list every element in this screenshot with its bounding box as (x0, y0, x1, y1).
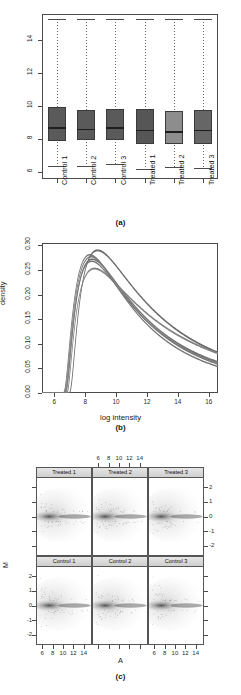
ma-panel-plot-area (149, 477, 203, 555)
ma-data-point (157, 530, 158, 531)
ma-data-point (183, 521, 184, 522)
boxplot-y-tick-label: 10 (26, 98, 33, 112)
ma-data-point (81, 610, 82, 611)
ma-data-point (122, 611, 123, 612)
ma-data-point (198, 601, 199, 602)
ma-data-point (119, 523, 120, 524)
ma-data-point (46, 625, 47, 626)
density-y-axis-title: density (0, 282, 7, 305)
ma-data-point (102, 596, 103, 597)
density-curve (42, 261, 218, 393)
ma-panel-plot-area (93, 566, 147, 644)
ma-data-point (50, 600, 51, 601)
ma-data-point (57, 512, 58, 513)
ma-data-point (45, 594, 46, 595)
ma-data-point (118, 507, 119, 508)
ma-data-point (41, 590, 42, 591)
ma-data-point (62, 610, 63, 611)
ma-data-point (40, 494, 41, 495)
ma-data-point (174, 600, 175, 601)
boxplot-whisker (57, 19, 58, 166)
ma-data-point (45, 588, 46, 589)
ma-data-point (118, 610, 119, 611)
panel-tag-b: (b) (0, 423, 241, 432)
ma-data-point (53, 511, 54, 512)
boxplot-y-tick (38, 106, 42, 107)
ma-data-point (105, 528, 106, 529)
boxplot-whisker-cap (77, 19, 95, 20)
ma-data-point (98, 575, 99, 576)
ma-bottom-x-tick (84, 645, 85, 649)
ma-data-point (108, 509, 109, 510)
ma-data-point (99, 598, 100, 599)
ma-data-point (163, 600, 164, 601)
panel-b-density: 0.000.050.100.150.200.250.30 6810121416 … (0, 235, 241, 440)
ma-data-point (96, 592, 97, 593)
boxplot-box (194, 110, 212, 144)
ma-data-point (49, 596, 50, 597)
ma-data-point (180, 511, 181, 512)
density-x-tick (209, 393, 210, 397)
ma-left-y-tick (32, 620, 36, 621)
ma-data-point (44, 592, 45, 593)
ma-data-point (129, 522, 130, 523)
ma-data-point (160, 511, 161, 512)
density-y-tick-label: 0.05 (24, 356, 31, 378)
ma-data-point (42, 594, 43, 595)
ma-bottom-x-tick (98, 645, 99, 649)
ma-data-point (99, 511, 100, 512)
ma-data-point (53, 612, 54, 613)
ma-data-point (171, 611, 172, 612)
ma-right-y-tick-label: 0 (209, 513, 222, 519)
boxplot-x-tick-label: Control 3 (119, 156, 128, 185)
ma-right-y-tick (204, 576, 208, 577)
ma-point-cloud (93, 566, 147, 645)
ma-data-point (48, 522, 49, 523)
ma-data-point (161, 510, 162, 511)
ma-panel: Control 2 (92, 556, 148, 645)
boxplot-median-line (194, 130, 212, 132)
ma-data-point (87, 610, 88, 611)
ma-data-point (60, 524, 61, 525)
ma-data-point (153, 614, 154, 615)
ma-data-point (133, 522, 134, 523)
ma-data-point (159, 523, 160, 524)
boxplot-y-tick-label: 12 (26, 65, 33, 79)
ma-data-point (160, 594, 161, 595)
ma-data-point (116, 521, 117, 522)
boxplot-whisker (174, 19, 175, 168)
ma-right-y-tick-label: 1 (209, 498, 222, 504)
ma-data-point (73, 511, 74, 512)
boxplot-median-line (48, 127, 66, 129)
ma-data-point (102, 618, 103, 619)
ma-data-point (110, 616, 111, 617)
ma-data-point (108, 521, 109, 522)
ma-data-point (132, 613, 133, 614)
ma-data-point (101, 504, 102, 505)
ma-data-point (132, 599, 133, 600)
ma-left-y-tick (32, 487, 36, 488)
ma-data-point (101, 598, 102, 599)
boxplot-whisker (115, 19, 116, 164)
ma-density-tail (114, 514, 146, 518)
boxplot-y-tick (38, 172, 42, 173)
ma-data-point (52, 521, 53, 522)
ma-right-y-tick (204, 517, 208, 518)
ma-data-point (165, 526, 166, 527)
ma-data-point (113, 509, 114, 510)
ma-data-point (60, 521, 61, 522)
ma-data-point (99, 509, 100, 510)
boxplot-x-tick-label: Treated 3 (207, 155, 216, 186)
ma-data-point (48, 611, 49, 612)
ma-left-y-tick (32, 502, 36, 503)
ma-data-point (45, 521, 46, 522)
ma-left-y-tick (32, 606, 36, 607)
ma-data-point (75, 521, 76, 522)
ma-data-point (161, 523, 162, 524)
ma-data-point (121, 511, 122, 512)
ma-data-point (122, 600, 123, 601)
boxplot-whisker-cap (165, 19, 183, 20)
boxplot-median-line (106, 127, 124, 129)
ma-data-point (155, 585, 156, 586)
density-x-tick-label: 16 (203, 398, 215, 405)
